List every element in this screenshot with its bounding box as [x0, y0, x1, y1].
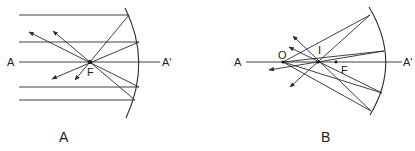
reflected-ray	[75, 15, 129, 80]
optics-diagram: A A' F A A A' O I F B	[0, 0, 415, 151]
figure-b: A A' O I F B	[234, 7, 412, 145]
focal-point	[88, 60, 92, 64]
incident-ray	[283, 62, 371, 111]
axis-label-right: A'	[403, 56, 412, 68]
concave-mirror	[125, 8, 139, 118]
reflected-ray	[53, 31, 135, 100]
figure-caption: A	[59, 129, 69, 145]
object-label: O	[278, 49, 287, 61]
axis-label-right: A'	[162, 56, 171, 68]
focus-label: F	[341, 64, 348, 76]
figure-caption: B	[321, 129, 330, 145]
incident-ray	[283, 62, 382, 93]
reflected-ray	[290, 15, 370, 87]
image-label: I	[318, 44, 321, 56]
axis-label-left: A	[234, 56, 242, 68]
axis-label-left: A	[7, 56, 15, 68]
concave-mirror	[369, 7, 386, 115]
reflected-ray	[29, 32, 139, 87]
focus-label: F	[87, 66, 94, 78]
focal-point	[335, 61, 338, 64]
figure-a: A A' F A	[7, 8, 171, 145]
reflected-ray	[52, 42, 139, 79]
incident-ray	[283, 51, 384, 62]
image-point	[316, 60, 319, 63]
